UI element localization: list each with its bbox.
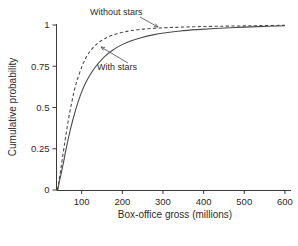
annotation-leader-without-stars — [140, 17, 158, 27]
x-tick-label: 500 — [236, 196, 252, 207]
x-axis-title: Box-office gross (millions) — [118, 209, 232, 220]
annotation-label-with-stars: With stars — [97, 62, 138, 72]
annotations-group: Without starsWith stars — [90, 7, 158, 72]
figure-container: 00.250.50.751 100200300400500600 Without… — [0, 0, 298, 246]
y-axis-title: Cumulative probability — [7, 58, 18, 156]
x-tick-label: 100 — [74, 196, 90, 207]
curve-with-stars — [58, 26, 285, 190]
series-group — [57, 25, 285, 190]
x-tick-label: 300 — [155, 196, 171, 207]
y-tick-label: 0.75 — [31, 61, 50, 72]
x-tick-labels: 100200300400500600 — [74, 196, 293, 207]
y-tick-label: 1 — [44, 19, 49, 30]
y-tick-marks — [53, 25, 57, 190]
curve-without-stars — [57, 25, 285, 190]
y-tick-label: 0.25 — [31, 143, 50, 154]
x-tick-label: 400 — [196, 196, 212, 207]
x-tick-label: 200 — [114, 196, 130, 207]
y-tick-label: 0 — [44, 184, 49, 195]
y-tick-labels: 00.250.50.751 — [31, 19, 50, 195]
y-tick-label: 0.5 — [36, 102, 49, 113]
annotation-label-without-stars: Without stars — [90, 7, 143, 17]
x-tick-label: 600 — [277, 196, 293, 207]
cdf-chart: 00.250.50.751 100200300400500600 Without… — [0, 0, 298, 246]
